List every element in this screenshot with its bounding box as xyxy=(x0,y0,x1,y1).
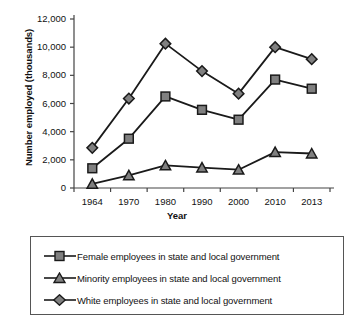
series-diamond xyxy=(87,38,317,153)
x-tick-label: 1964 xyxy=(72,197,112,207)
legend-label-white: White employees in state and local gover… xyxy=(77,295,272,306)
x-tick-label: 1980 xyxy=(145,197,185,207)
data-series-group xyxy=(87,38,317,188)
plot-area: Number employed (thousands) Year 02,0004… xyxy=(0,0,354,232)
y-tick-label: 6,000 xyxy=(20,99,66,109)
y-tick-label: 12,000 xyxy=(20,14,66,24)
x-tick-label: 1990 xyxy=(182,197,222,207)
line-chart-figure: Number employed (thousands) Year 02,0004… xyxy=(0,0,354,328)
legend-diamond-marker-icon xyxy=(43,294,77,306)
legend-item-female: Female employees in state and local gove… xyxy=(31,245,343,267)
data-point-marker xyxy=(234,115,243,124)
data-point-marker xyxy=(124,134,133,143)
data-point-marker xyxy=(161,92,170,101)
legend-item-minority: Minority employees in state and local go… xyxy=(31,267,343,289)
x-tick-label: 2010 xyxy=(255,197,295,207)
data-point-marker xyxy=(307,84,316,93)
y-tick-label: 10,000 xyxy=(20,42,66,52)
series-triangle xyxy=(87,147,317,188)
x-tick-label: 2013 xyxy=(292,197,332,207)
chart-legend: Female employees in state and local gove… xyxy=(30,236,344,315)
series-square xyxy=(88,75,316,173)
data-point-marker xyxy=(306,54,317,65)
y-tick-label: 0 xyxy=(20,183,66,193)
x-tick-label: 2000 xyxy=(219,197,259,207)
y-tick-label: 2,000 xyxy=(20,155,66,165)
data-point-marker xyxy=(88,164,97,173)
legend-square-marker-icon xyxy=(43,250,77,262)
legend-label-female: Female employees in state and local gove… xyxy=(77,251,279,262)
legend-label-minority: Minority employees in state and local go… xyxy=(77,273,281,284)
x-tick-label: 1970 xyxy=(109,197,149,207)
legend-triangle-marker-icon xyxy=(43,272,77,284)
data-point-marker xyxy=(198,105,207,114)
y-tick-label: 4,000 xyxy=(20,127,66,137)
legend-item-white: White employees in state and local gover… xyxy=(31,289,343,311)
data-point-marker xyxy=(271,75,280,84)
y-tick-label: 8,000 xyxy=(20,70,66,80)
